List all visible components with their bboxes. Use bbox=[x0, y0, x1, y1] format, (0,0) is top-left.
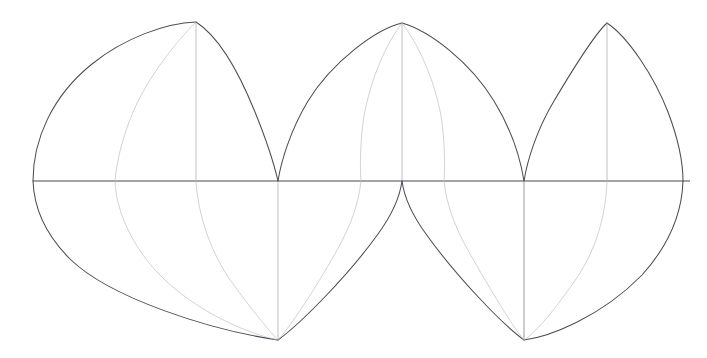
gore-diagram-figure bbox=[0, 0, 707, 358]
gore-diagram-canvas bbox=[0, 0, 707, 358]
